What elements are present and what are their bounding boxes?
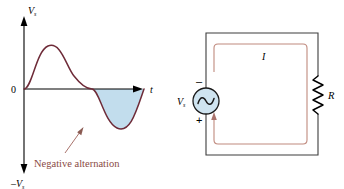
x-axis-label: t [150, 84, 153, 95]
y-axis-label: Vs [28, 5, 37, 17]
circuit-panel: – + Vs I R [177, 33, 335, 155]
circuit-wire-outer [206, 33, 318, 94]
resistor-zigzag-icon [313, 76, 323, 114]
y-axis-negative-label: –Vs [10, 178, 25, 189]
current-path-loop [214, 44, 307, 144]
y-axis-arrow-down-icon [21, 164, 28, 174]
y-axis-arrow-up-icon [21, 16, 28, 26]
source-label: Vs [177, 96, 186, 108]
current-label: I [261, 51, 266, 62]
figure-root: Vs –Vs 0 t Negative alternation – + Vs I [0, 0, 344, 189]
origin-label: 0 [11, 84, 16, 95]
source-polarity-plus: + [196, 114, 202, 126]
waveform-panel: Vs –Vs 0 t Negative alternation [10, 5, 153, 189]
source-polarity-minus: – [196, 75, 203, 87]
circuit-wire-outer-lower [206, 108, 318, 155]
negative-alternation-annotation: Negative alternation [34, 158, 120, 169]
annotation-leader-line [65, 132, 80, 153]
resistor-label: R [327, 90, 335, 101]
